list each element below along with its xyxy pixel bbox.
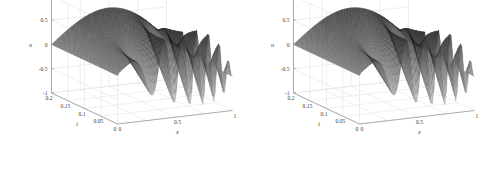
t-axis-label: t <box>318 120 320 127</box>
plot-svg-left: 10.50-0.5-1u0.20.150.10.050t00.51x <box>0 0 241 180</box>
u-tick-0: 0 <box>45 42 48 48</box>
u-tick-0: 0 <box>287 42 290 48</box>
t-tick-0.15: 0.15 <box>61 103 71 109</box>
x-tick-0.5: 0.5 <box>174 119 181 125</box>
surface-plot-left: 10.50-0.5-1u0.20.150.10.050t00.51x <box>0 0 241 180</box>
t-tick-0.2: 0.2 <box>288 95 295 101</box>
u-tick--0.5: -0.5 <box>39 66 48 72</box>
u-axis-label: u <box>29 41 32 48</box>
t-tick-0.1: 0.1 <box>321 111 328 117</box>
x-axis-label: x <box>417 128 421 135</box>
figure-canvas: 10.50-0.5-1u0.20.150.10.050t00.51x 10.50… <box>0 0 483 180</box>
t-axis-label: t <box>76 120 78 127</box>
u-tick-0.5: 0.5 <box>41 17 48 23</box>
u-axis-label: u <box>271 41 274 48</box>
plot-svg-right: 10.50-0.5-1u0.20.150.10.050t00.51x <box>242 0 483 180</box>
surface-plot-right: 10.50-0.5-1u0.20.150.10.050t00.51x <box>242 0 483 180</box>
t-tick-0.05: 0.05 <box>336 118 346 124</box>
u-tick-0.5: 0.5 <box>283 17 290 23</box>
t-tick-0.1: 0.1 <box>79 111 86 117</box>
x-axis-label: x <box>175 128 179 135</box>
x-tick-1: 1 <box>476 113 479 119</box>
x-tick-0.5: 0.5 <box>416 119 423 125</box>
x-tick-0: 0 <box>119 126 122 132</box>
x-tick-1: 1 <box>234 113 237 119</box>
t-tick-0.05: 0.05 <box>94 118 104 124</box>
t-tick-0.2: 0.2 <box>46 95 53 101</box>
u-tick--0.5: -0.5 <box>281 66 290 72</box>
t-tick-0: 0 <box>356 126 359 132</box>
t-tick-0.15: 0.15 <box>303 103 313 109</box>
x-tick-0: 0 <box>361 126 364 132</box>
t-tick-0: 0 <box>114 126 117 132</box>
